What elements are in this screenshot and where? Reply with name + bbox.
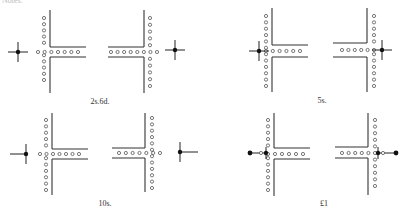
particle-dot: [266, 137, 269, 140]
particle-dot: [150, 142, 153, 145]
particle-dot: [373, 145, 376, 148]
particle-dot: [44, 131, 47, 134]
particle-dot: [373, 118, 376, 121]
panel-label-1-pound: £1: [320, 199, 328, 208]
particle-dot: [372, 21, 375, 24]
particle-dot: [77, 152, 80, 155]
particle-dot: [43, 50, 46, 53]
particle-dot: [354, 151, 357, 154]
particle-dot: [150, 180, 153, 183]
particle-dot: [372, 14, 375, 17]
particle-dot: [372, 72, 375, 75]
particle-dot: [285, 49, 288, 52]
particle-dot: [148, 16, 151, 19]
particle-dot: [42, 78, 45, 81]
particle-dot: [264, 84, 267, 87]
particle-dot: [148, 57, 151, 60]
particle-dot: [373, 132, 376, 135]
particle-dot: [124, 151, 127, 154]
particle-dot: [150, 129, 153, 132]
particle-dot: [42, 60, 45, 63]
particle-dot: [373, 158, 376, 161]
particle-dot: [71, 152, 74, 155]
particle-dot: [123, 50, 126, 53]
particle-dot: [266, 188, 269, 191]
particle-dot: [373, 125, 376, 128]
particle-dot: [148, 84, 151, 87]
particle-dot: [366, 48, 369, 51]
particle-dot: [148, 30, 151, 33]
particle-dot: [42, 54, 45, 57]
particle-dot: [372, 33, 375, 36]
particle-dot: [148, 23, 151, 26]
particle-dot: [150, 167, 153, 170]
particle-dot: [340, 151, 343, 154]
particle-dot: [360, 151, 363, 154]
endpoint-dot-icon: [248, 151, 253, 156]
particle-dot: [373, 138, 376, 141]
particle-dot: [63, 50, 66, 53]
particle-dot: [287, 152, 290, 155]
particle-dot: [50, 50, 53, 53]
particle-dot: [372, 27, 375, 30]
particle-dot: [44, 157, 47, 160]
particle-dot: [264, 27, 267, 30]
endpoint-dot-icon: [394, 151, 399, 156]
particle-dot: [64, 152, 67, 155]
particle-dot: [44, 188, 47, 191]
particle-dot: [42, 23, 45, 26]
source-dot-icon: [24, 152, 28, 156]
particle-dot: [42, 35, 45, 38]
particle-dot: [148, 37, 151, 40]
particle-dot: [292, 49, 295, 52]
panel-label-10s: 10s.: [98, 199, 111, 208]
particle-dot: [340, 48, 343, 51]
particle-dot: [266, 131, 269, 134]
particle-dot: [373, 184, 376, 187]
particle-dot: [264, 40, 267, 43]
particle-dot: [373, 171, 376, 174]
particle-dot: [266, 118, 269, 121]
particle-dot: [367, 151, 370, 154]
particle-dot: [273, 152, 276, 155]
particle-dot: [298, 49, 301, 52]
particle-dot: [150, 123, 153, 126]
particle-dot: [155, 50, 158, 53]
particle-dot: [158, 151, 161, 154]
particle-dot: [264, 21, 267, 24]
particle-dot: [372, 84, 375, 87]
particle-dot: [42, 72, 45, 75]
particle-dot: [373, 165, 376, 168]
particle-dot: [44, 182, 47, 185]
particle-dot: [280, 152, 283, 155]
particle-dot: [148, 71, 151, 74]
particle-dot: [259, 151, 262, 154]
particle-dot: [136, 50, 139, 53]
particle-dot: [353, 48, 356, 51]
particle-dot: [347, 48, 350, 51]
source-dot-icon: [16, 50, 20, 54]
particle-dot: [150, 186, 153, 189]
particle-dot: [45, 152, 48, 155]
junction-diagram: [0, 0, 406, 213]
particle-dot: [266, 144, 269, 147]
particle-dot: [347, 151, 350, 154]
particle-dot: [58, 152, 61, 155]
particle-dot: [44, 163, 47, 166]
particle-dot: [42, 41, 45, 44]
particle-dot: [264, 14, 267, 17]
particle-dot: [294, 152, 297, 155]
particle-dot: [372, 53, 375, 56]
particle-dot: [264, 33, 267, 36]
particle-dot: [150, 135, 153, 138]
particle-dot: [149, 50, 152, 53]
particle-dot: [44, 176, 47, 179]
particle-dot: [116, 50, 119, 53]
particle-dot: [117, 151, 120, 154]
particle-dot: [152, 151, 155, 154]
panel-label-5s: 5s.: [317, 96, 326, 105]
particle-dot: [42, 16, 45, 19]
particle-dot: [150, 174, 153, 177]
panel-label-2s6d: 2s.6d.: [90, 97, 109, 106]
particle-dot: [44, 137, 47, 140]
